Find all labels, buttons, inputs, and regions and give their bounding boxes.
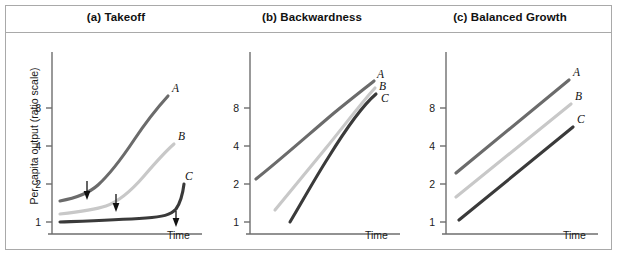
- series-label-b: B: [379, 80, 386, 92]
- series-label-a: A: [171, 82, 180, 94]
- panel-takeoff: Per capita output (ratio scale) 1 2 4 8 …: [6, 34, 218, 250]
- y-tick-label-1: 1: [429, 216, 435, 228]
- x-axis-label: Time: [563, 229, 586, 241]
- y-tick-label-8: 8: [233, 102, 239, 114]
- panel-backwardness: 1 2 4 8 Time A B C: [218, 34, 414, 250]
- x-axis-label: Time: [167, 229, 190, 241]
- series-label-c: C: [381, 92, 389, 104]
- figure-frame: (a) Takeoff (b) Backwardness (c) Balance…: [5, 5, 612, 250]
- series-group-balanced-growth: A B C: [456, 66, 585, 220]
- series-label-c: C: [185, 170, 193, 182]
- y-tick-label-4: 4: [429, 140, 435, 152]
- chart-balanced-growth: 1 2 4 8 Time A B C: [414, 34, 612, 250]
- x-axis-label: Time: [365, 229, 388, 241]
- y-tick-label-2: 2: [429, 178, 435, 190]
- takeoff-arrow-b: [113, 194, 120, 212]
- y-tick-label-1: 1: [233, 216, 239, 228]
- series-line-a: [256, 81, 374, 179]
- y-tick-label-1: 1: [35, 216, 41, 228]
- takeoff-arrow-c: [173, 211, 180, 227]
- y-tick-label-2: 2: [233, 178, 239, 190]
- y-tick-label-2: 2: [35, 178, 41, 190]
- y-tick-label-4: 4: [35, 140, 41, 152]
- series-line-a: [456, 80, 569, 173]
- panel-title-bar: (a) Takeoff (b) Backwardness (c) Balance…: [6, 6, 611, 33]
- y-tick-label-8: 8: [35, 102, 41, 114]
- series-label-a: A: [572, 66, 581, 78]
- y-tick-label-8: 8: [429, 102, 435, 114]
- series-line-b: [456, 104, 571, 197]
- series-label-b: B: [178, 130, 185, 142]
- y-tick-label-4: 4: [233, 140, 239, 152]
- series-label-c: C: [577, 113, 585, 125]
- panel-title-backwardness: (b) Backwardness: [220, 11, 404, 23]
- series-line-c: [459, 127, 573, 220]
- series-group-backwardness: A B C: [256, 68, 389, 222]
- panel-balanced-growth: 1 2 4 8 Time A B C: [414, 34, 612, 250]
- series-group-takeoff: A B C: [60, 82, 193, 222]
- chart-backwardness: 1 2 4 8 Time A B C: [218, 34, 414, 250]
- series-label-b: B: [575, 90, 582, 102]
- series-line-a: [60, 96, 168, 201]
- panel-title-balanced-growth: (c) Balanced Growth: [414, 11, 606, 23]
- series-line-c: [60, 184, 184, 222]
- axes-balanced-growth: 1 2 4 8 Time: [429, 52, 598, 241]
- panel-title-takeoff: (a) Takeoff: [24, 11, 208, 23]
- chart-takeoff: 1 2 4 8 Time A B C: [6, 34, 218, 250]
- series-label-a: A: [376, 68, 385, 80]
